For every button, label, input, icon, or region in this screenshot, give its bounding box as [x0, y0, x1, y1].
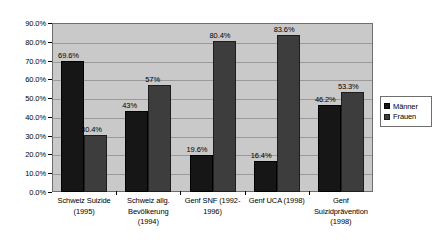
- x-axis-tick-mark: [116, 191, 117, 195]
- legend-item-frauen[interactable]: Frauen: [384, 112, 428, 121]
- y-axis-tick-label: 60.0%: [25, 75, 46, 84]
- bar-chart: 0.0%10.0%20.0%30.0%40.0%50.0%60.0%70.0%8…: [0, 0, 435, 250]
- x-axis-category-label-line: 1996): [173, 207, 251, 218]
- y-axis-tick-label: 80.0%: [25, 37, 46, 46]
- bar-value-label: 19.6%: [187, 145, 208, 154]
- y-axis-tick-label: 30.0%: [25, 131, 46, 140]
- legend-item-label: Frauen: [393, 112, 416, 121]
- legend-item-maenner[interactable]: Männer: [384, 102, 428, 111]
- x-axis-category-label-line: Suizidprävention: [302, 207, 380, 218]
- bar-maenner: [254, 161, 277, 192]
- y-axis-tick-label: 40.0%: [25, 112, 46, 121]
- y-axis-tick-label: 20.0%: [25, 150, 46, 159]
- y-axis-tick-label: 70.0%: [25, 56, 46, 65]
- bar-value-label: 43%: [122, 101, 137, 110]
- y-axis-tick-mark: [48, 192, 52, 193]
- x-axis-tick-mark: [245, 191, 246, 195]
- bar-frauen: [84, 135, 107, 192]
- bar-maenner: [190, 155, 213, 192]
- chart-legend: MännerFrauen: [380, 96, 432, 127]
- x-axis-category-label: GenfSuizidprävention(1998): [302, 196, 380, 228]
- legend-swatch-icon: [384, 114, 390, 120]
- bar-value-label: 53.3%: [338, 82, 359, 91]
- x-axis-category-label-line: (1994): [109, 217, 187, 228]
- x-axis-tick-mark: [180, 191, 181, 195]
- bar-frauen: [148, 85, 171, 192]
- y-axis: 0.0%10.0%20.0%30.0%40.0%50.0%60.0%70.0%8…: [0, 0, 52, 194]
- bar-value-label: 69.6%: [58, 51, 79, 60]
- y-axis-tick-label: 10.0%: [25, 169, 46, 178]
- bar-value-label: 80.4%: [210, 31, 231, 40]
- x-axis-category-label-line: Genf: [302, 196, 380, 207]
- bar-value-label: 46.2%: [315, 95, 336, 104]
- x-axis-tick-mark: [309, 191, 310, 195]
- bar-value-label: 30.4%: [81, 125, 102, 134]
- bar-frauen: [277, 35, 300, 192]
- y-axis-tick-label: 50.0%: [25, 94, 46, 103]
- bar-frauen: [213, 41, 236, 192]
- bar-maenner: [125, 111, 148, 192]
- bar-value-label: 57%: [145, 75, 160, 84]
- y-axis-tick-label: 0.0%: [29, 188, 46, 197]
- y-axis-tick-label: 90.0%: [25, 19, 46, 28]
- bar-maenner: [318, 105, 341, 192]
- legend-swatch-icon: [384, 103, 390, 109]
- x-axis-category-label-line: (1998): [302, 217, 380, 228]
- bar-value-label: 83.6%: [274, 25, 295, 34]
- legend-item-label: Männer: [393, 102, 418, 111]
- bar-value-label: 16.4%: [251, 151, 272, 160]
- bar-frauen: [341, 92, 364, 192]
- x-axis-category-labels: Schweiz Suizide(1995)Schweiz allg.Bevölk…: [52, 196, 373, 250]
- bars-layer: 69.6%30.4%43%57%19.6%80.4%16.4%83.6%46.2…: [52, 23, 373, 192]
